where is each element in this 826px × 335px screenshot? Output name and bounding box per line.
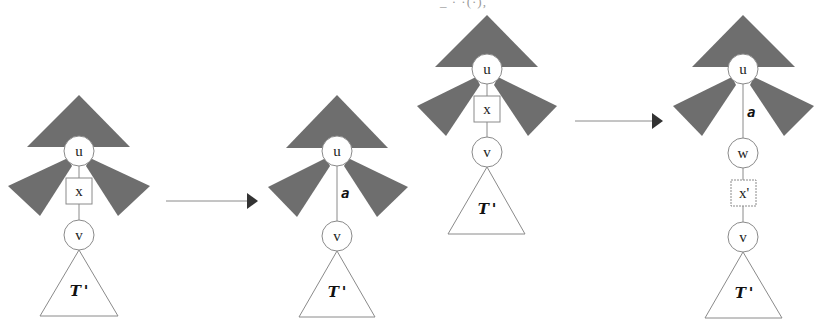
subtree-label: T ' — [478, 200, 497, 218]
subtree-label: T ' — [70, 282, 89, 300]
right-wing-region — [750, 77, 814, 136]
left-wing-region — [673, 77, 736, 136]
diagram-left-before: u x v T ' — [8, 95, 150, 316]
node-x-prime-label: x' — [739, 185, 750, 201]
left-wing-region — [417, 77, 480, 136]
diagram-left-after: a u v T ' — [268, 95, 408, 317]
diagram-right-after: a u w x' v T ' — [673, 15, 814, 318]
node-v-label: v — [333, 228, 341, 244]
transform-arrow-2 — [575, 113, 663, 129]
node-u-label: u — [483, 61, 491, 77]
node-x-label: x — [483, 101, 491, 117]
diagram-right-before: u x v T ' — [417, 15, 557, 234]
node-v-label: v — [75, 227, 83, 243]
edge-label-a: a — [341, 185, 349, 201]
arrow-head-icon — [247, 193, 258, 209]
transform-arrow-1 — [166, 193, 258, 209]
arrow-head-icon — [652, 113, 663, 129]
node-u-label: u — [75, 143, 83, 159]
node-u-label: u — [333, 143, 341, 159]
node-x-label: x — [75, 183, 83, 199]
subtree-label: T ' — [735, 284, 754, 302]
right-wing-region — [86, 158, 150, 216]
subtree-label: T ' — [328, 283, 347, 301]
right-wing-region — [344, 158, 408, 217]
edge-label-a: a — [747, 104, 755, 120]
left-wing-region — [268, 158, 330, 217]
right-wing-region — [494, 77, 557, 136]
node-w-label: w — [738, 145, 749, 161]
node-v-label: v — [739, 229, 747, 245]
node-v-label: v — [483, 144, 491, 160]
left-wing-region — [8, 158, 72, 216]
node-u-label: u — [739, 61, 747, 77]
